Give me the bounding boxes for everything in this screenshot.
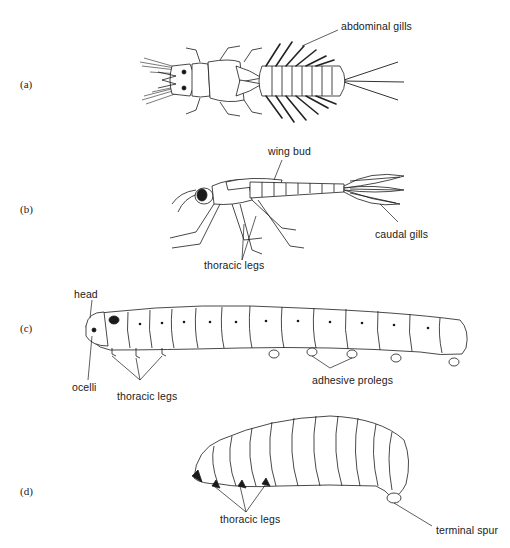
callout-thoracic-legs-d: thoracic legs	[220, 513, 280, 525]
panel-label-c: (c)	[20, 322, 32, 334]
callout-thoracic-legs-c: thoracic legs	[117, 390, 177, 402]
panel-label-b: (b)	[20, 203, 33, 215]
callout-caudal-gills: caudal gills	[375, 228, 428, 240]
figure-illustrations	[0, 0, 510, 548]
nymph-a-drawing	[140, 30, 404, 122]
callout-head: head	[74, 288, 98, 300]
callout-wing-bud: wing bud	[268, 145, 311, 157]
panel-label-d: (d)	[20, 485, 33, 497]
nymph-b-drawing	[170, 160, 404, 260]
callout-abdominal-gills: abdominal gills	[341, 20, 412, 32]
callout-adhesive-prolegs: adhesive prolegs	[312, 374, 393, 386]
callout-terminal-spur: terminal spur	[436, 524, 498, 536]
callout-thoracic-legs-b: thoracic legs	[204, 259, 264, 271]
grub-d-drawing	[192, 416, 432, 526]
callout-ocelli: ocelli	[72, 381, 97, 393]
caterpillar-c-drawing	[86, 300, 467, 380]
panel-label-a: (a)	[20, 78, 32, 90]
